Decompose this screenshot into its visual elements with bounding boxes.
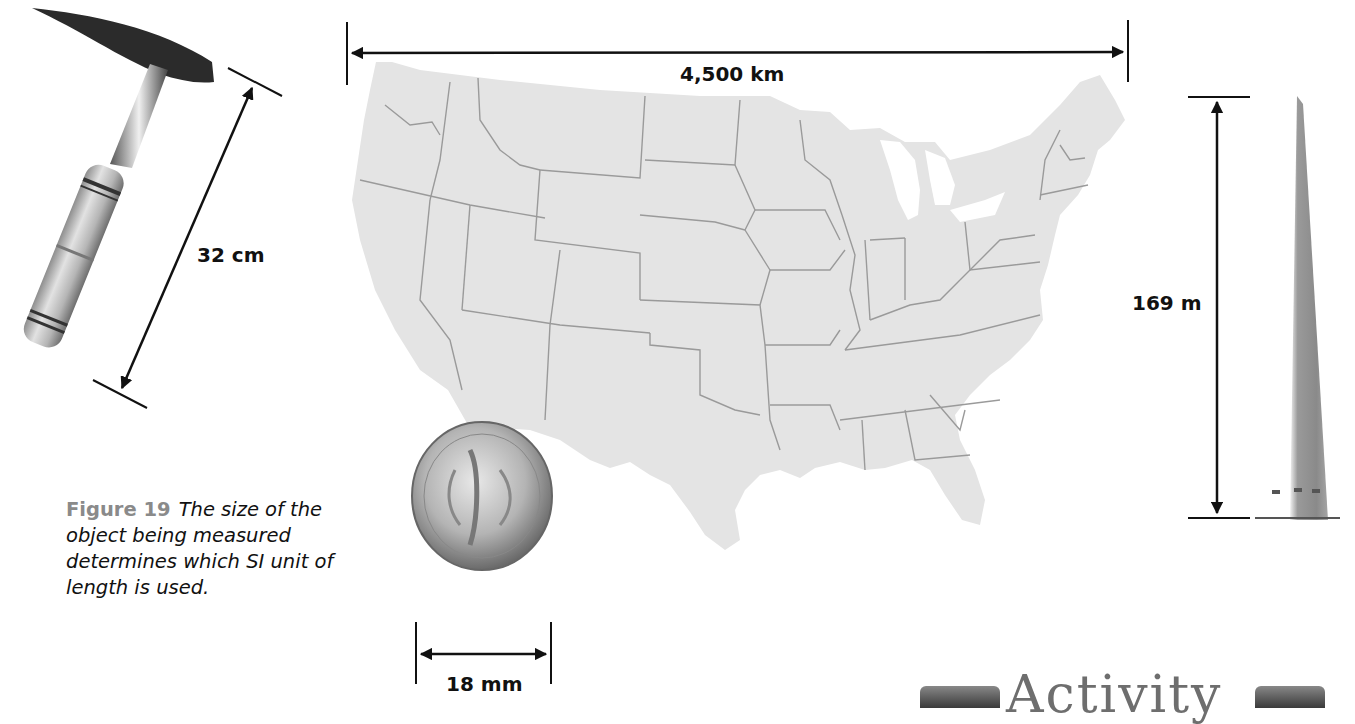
hammer-image	[20, 8, 214, 352]
activity-banner-right-bar	[1255, 686, 1325, 708]
monument-height-label: 169 m	[1132, 291, 1202, 315]
activity-banner-left-bar	[920, 686, 1000, 708]
hammer-length-label: 32 cm	[197, 243, 265, 267]
dime-width-label: 18 mm	[446, 672, 522, 696]
map-width-label: 4,500 km	[680, 62, 784, 86]
figure-caption: Figure 19The size of the object being me…	[66, 497, 356, 601]
hammer-dimension-arrow	[93, 68, 282, 408]
monument-image	[1255, 96, 1340, 520]
dime-image	[412, 422, 552, 570]
figure-label: Figure 19	[66, 498, 171, 521]
activity-banner-title: Activity	[1006, 668, 1222, 720]
